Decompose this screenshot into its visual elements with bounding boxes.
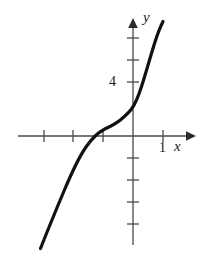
- cubic-curve: [41, 22, 164, 249]
- axes-group: [18, 18, 196, 245]
- x-axis-arrowhead: [186, 131, 196, 141]
- figure-container: y x 4 1: [0, 0, 203, 268]
- y-axis-arrowhead: [128, 18, 138, 28]
- x-axis-label: x: [174, 139, 181, 154]
- y-tick-label-4: 4: [109, 75, 116, 89]
- y-axis-label: y: [143, 10, 150, 25]
- x-tick-label-1: 1: [159, 141, 166, 155]
- graph-canvas: [0, 0, 203, 268]
- caption-strip: [0, 258, 203, 268]
